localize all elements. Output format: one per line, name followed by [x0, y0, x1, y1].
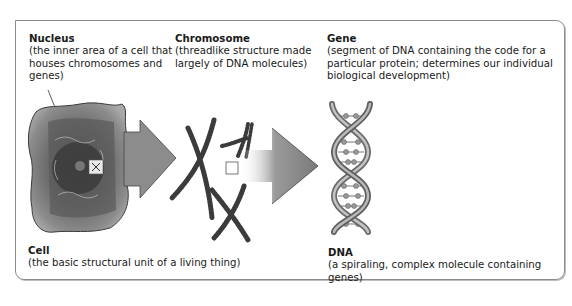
gene-highlight-box: [226, 162, 238, 174]
diagram-illustrations: [0, 0, 572, 306]
right-arrow-icon: [240, 128, 318, 204]
right-arrow-icon: [124, 120, 176, 198]
cell-illustration-icon: [28, 103, 128, 232]
dna-double-helix-icon: [332, 104, 370, 232]
